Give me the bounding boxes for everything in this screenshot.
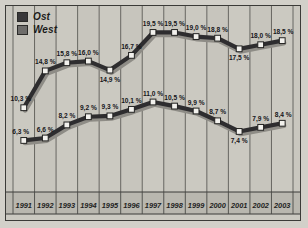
data-point-marker [42, 68, 48, 74]
data-point-marker [279, 120, 285, 126]
data-point-marker [64, 122, 70, 128]
data-label: 9,3 % [101, 103, 118, 111]
legend-swatch-west [17, 25, 28, 35]
data-point-marker [258, 124, 264, 130]
data-label: 8,7 % [209, 108, 226, 116]
data-label: 9,2 % [80, 104, 97, 112]
x-axis-label: 1993 [59, 201, 76, 210]
legend-item-west: West [17, 25, 57, 35]
data-point-marker [236, 129, 242, 135]
legend-label-west: West [33, 25, 57, 35]
data-label: 10,1 % [121, 97, 142, 105]
data-label: 8,2 % [58, 112, 75, 120]
x-axis-label: 1997 [145, 201, 162, 210]
data-point-marker [279, 38, 285, 44]
data-label: 19,5 % [164, 20, 185, 28]
data-label: 6,3 % [12, 128, 29, 136]
chart-legend: Ost West [17, 12, 57, 35]
legend-item-ost: Ost [17, 12, 57, 22]
x-axis-label: 2003 [273, 201, 291, 210]
data-label: 14,9 % [100, 76, 121, 84]
x-axis-label: 2001 [230, 201, 247, 210]
data-label: 6,6 % [37, 126, 54, 134]
data-label: 18,0 % [250, 32, 271, 40]
chart-plot-area: 1991199219931994199519961997199819992000… [6, 6, 300, 220]
data-label: 7,4 % [231, 137, 248, 145]
data-point-marker [64, 60, 70, 66]
plot-band [99, 6, 121, 192]
legend-swatch-ost [17, 12, 28, 22]
data-point-marker [107, 113, 113, 119]
data-point-marker [107, 67, 113, 73]
data-point-marker [215, 35, 221, 41]
x-axis-label: 1994 [80, 201, 96, 210]
data-label: 16,0 % [78, 49, 99, 57]
data-point-marker [150, 99, 156, 105]
legend-label-ost: Ost [33, 12, 50, 22]
data-label: 10,5 % [164, 94, 185, 102]
data-label: 15,8 % [57, 50, 78, 58]
data-label: 11,0 % [143, 90, 163, 98]
data-label: 9,9 % [188, 99, 205, 107]
x-axis-label: 1992 [37, 201, 54, 210]
x-axis-label: 1998 [166, 201, 183, 210]
data-label: 14,8 % [35, 58, 56, 66]
data-point-marker [236, 46, 242, 52]
plot-band [78, 6, 100, 192]
data-label: 7,9 % [252, 115, 269, 123]
data-point-marker [129, 106, 135, 112]
data-point-marker [172, 103, 178, 109]
data-point-marker [85, 58, 91, 64]
data-point-marker [215, 118, 221, 124]
x-axis-label: 1999 [188, 201, 205, 210]
chart-figure: Ost West 1991199219931994199519961997199… [0, 0, 308, 228]
data-point-marker [129, 52, 135, 58]
x-axis-label: 2002 [251, 201, 269, 210]
plot-band [207, 6, 229, 192]
x-axis-label: 1995 [102, 201, 119, 210]
data-point-marker [193, 108, 199, 114]
data-point-marker [150, 30, 156, 36]
chart-svg: 1991199219931994199519961997199819992000… [6, 6, 300, 220]
data-label: 8,4 % [275, 111, 292, 119]
data-label: 17,5 % [229, 54, 250, 62]
x-axis-label: 2000 [208, 201, 226, 210]
data-point-marker [42, 135, 48, 141]
x-axis-label: 1996 [123, 201, 140, 210]
data-point-marker [21, 105, 27, 111]
data-point-marker [172, 30, 178, 36]
data-label: 10,3 % [11, 95, 32, 103]
x-axis-label: 1991 [16, 201, 32, 210]
data-label: 18,5 % [273, 28, 294, 36]
data-point-marker [258, 42, 264, 48]
plot-band [228, 6, 250, 192]
data-point-marker [193, 34, 199, 40]
data-point-marker [85, 114, 91, 120]
plot-band [56, 6, 78, 192]
data-label: 19,0 % [186, 24, 207, 32]
data-label: 19,5 % [143, 20, 164, 28]
data-point-marker [21, 138, 27, 144]
data-label: 18,8 % [207, 26, 228, 34]
data-label: 16,7 % [121, 43, 142, 51]
